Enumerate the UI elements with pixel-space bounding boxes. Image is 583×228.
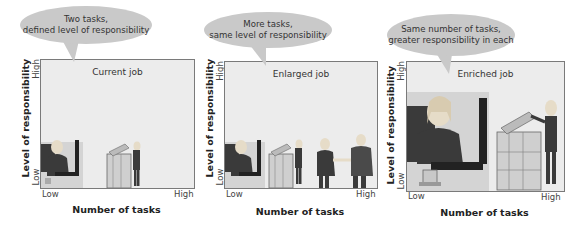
y-axis-title: Level of responsibility xyxy=(385,75,396,185)
bubble-line-2: defined level of responsibility xyxy=(23,25,149,36)
x-axis-low-label: Low xyxy=(226,189,243,199)
bubble-line-1: Two tasks, xyxy=(64,14,108,25)
bubble-line-2: same level of responsibility xyxy=(209,30,327,41)
y-axis-low-label: Low xyxy=(396,173,406,190)
x-axis-low-label: Low xyxy=(408,191,425,201)
copier-worker-illustration xyxy=(105,140,145,188)
panel-enlarged-job: More tasks, same level of responsibility… xyxy=(196,0,388,228)
y-axis-title: Level of responsibility xyxy=(204,68,215,178)
x-axis-high-label: High xyxy=(541,192,561,202)
desk-worker-illustration xyxy=(41,136,83,188)
bubble-line-2: greater responsibility in each xyxy=(388,35,514,46)
chart-box: Current job xyxy=(40,59,195,189)
y-axis-title: Level of responsibility xyxy=(20,68,31,178)
x-axis-title: Number of tasks xyxy=(406,207,563,218)
x-axis-title: Number of tasks xyxy=(224,206,376,217)
handshake-illustration xyxy=(311,132,375,188)
box-title: Enlarged job xyxy=(225,69,377,79)
desk-worker-illustration xyxy=(225,136,265,188)
x-axis-title: Number of tasks xyxy=(40,204,193,215)
copier-worker-illustration xyxy=(267,138,307,188)
chart-box: Enlarged job xyxy=(224,61,378,189)
x-axis-high-label: High xyxy=(174,189,194,199)
bubble-line-1: More tasks, xyxy=(243,19,292,30)
box-title: Current job xyxy=(41,67,194,77)
speech-bubble: Same number of tasks, greater responsibi… xyxy=(387,14,515,56)
panel-enriched-job: Same number of tasks, greater responsibi… xyxy=(385,0,583,228)
bubble-line-1: Same number of tasks, xyxy=(401,24,501,35)
desk-worker-large-illustration xyxy=(407,92,489,191)
x-axis-low-label: Low xyxy=(42,189,59,199)
speech-bubble: Two tasks, defined level of responsibili… xyxy=(20,6,152,44)
speech-bubble: More tasks, same level of responsibility xyxy=(204,12,332,48)
copier-worker-large-illustration xyxy=(493,98,563,191)
y-axis-high-label: High xyxy=(396,61,406,81)
x-axis-high-label: High xyxy=(356,189,376,199)
panel-current-job: Two tasks, defined level of responsibili… xyxy=(0,0,200,228)
chart-box: Enriched job xyxy=(406,61,565,192)
